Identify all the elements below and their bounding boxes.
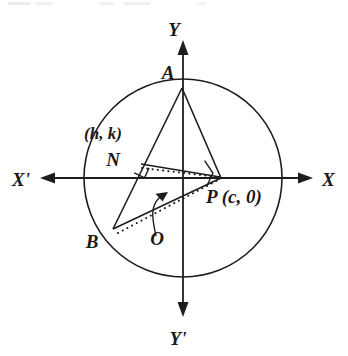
point-label-P: P (c, 0) — [205, 186, 262, 208]
point-label-B: B — [85, 231, 99, 252]
midpoint-coordinates-label: (h, k) — [84, 124, 122, 143]
point-label-A: A — [161, 62, 175, 83]
y-axis-bottom-arrowhead — [178, 302, 189, 317]
axis-label-y-negative: Y' — [170, 328, 187, 349]
point-label-N: N — [105, 149, 121, 170]
segment-AB — [113, 88, 182, 229]
segment-AP — [182, 88, 221, 178]
x-axis-left-arrowhead — [40, 173, 55, 184]
axis-group — [40, 40, 313, 317]
segment-NP-dotted — [142, 168, 218, 177]
scan-artifacts — [8, 2, 206, 5]
triangle-ABP — [113, 88, 221, 229]
segment-BP — [113, 178, 221, 229]
axis-label-x-negative: X' — [11, 169, 30, 190]
geometry-figure: X' X Y Y' A B P (c, 0) N (h, k) O — [0, 0, 348, 356]
origin-label-O: O — [150, 228, 164, 249]
axis-label-y-positive: Y — [168, 19, 182, 40]
diagram-canvas: X' X Y Y' A B P (c, 0) N (h, k) O — [0, 0, 348, 356]
y-axis-top-arrowhead — [178, 40, 189, 55]
axis-label-x-positive: X — [321, 169, 336, 190]
x-axis-right-arrowhead — [298, 173, 313, 184]
